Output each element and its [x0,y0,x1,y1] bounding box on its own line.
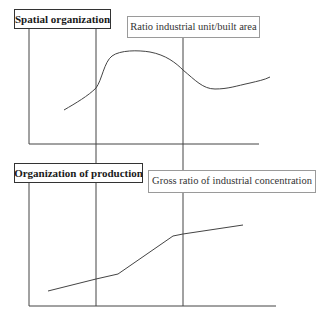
top-series-label: Ratio industrial unit/built area [127,16,260,38]
top-panel-title: Spatial organization [14,9,111,29]
ratio-curve [64,51,270,110]
bottom-panel [29,183,276,306]
top-series-label-text: Ratio industrial unit/built area [130,22,256,33]
top-panel-title-text: Spatial organization [15,14,110,25]
diagram-canvas [0,0,324,318]
bottom-series-label: Gross ratio of industrial concentration [148,170,316,193]
bottom-panel-title-text: Organization of production [14,168,143,179]
bottom-panel-title: Organization of production [14,163,143,183]
top-panel [29,28,270,144]
bottom-series-label-text: Gross ratio of industrial concentration [152,176,312,187]
gross-ratio-line [48,225,243,291]
